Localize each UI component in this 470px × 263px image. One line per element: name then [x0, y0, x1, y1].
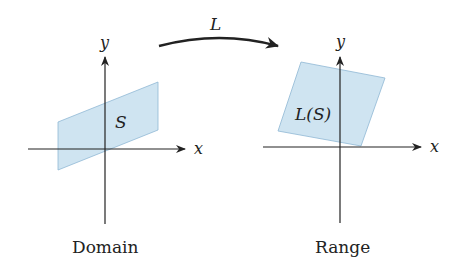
domain-x-label: x — [194, 139, 203, 158]
linear-transformation-diagram: x y S Domain L x y L(S) Range — [0, 0, 470, 263]
region-s-label: S — [115, 112, 127, 132]
range-plot: x y L(S) Range — [263, 32, 439, 257]
range-x-label: x — [430, 137, 439, 156]
range-caption: Range — [315, 237, 370, 257]
domain-plot: x y S Domain — [28, 33, 203, 257]
transformation-arrow: L — [159, 14, 278, 46]
transform-label: L — [209, 14, 221, 34]
diagram-canvas: x y S Domain L x y L(S) Range — [0, 0, 470, 263]
region-s — [58, 82, 158, 170]
range-y-label: y — [335, 32, 346, 51]
domain-y-label: y — [99, 33, 110, 52]
region-ls-label: L(S) — [294, 104, 331, 124]
domain-caption: Domain — [72, 237, 139, 257]
